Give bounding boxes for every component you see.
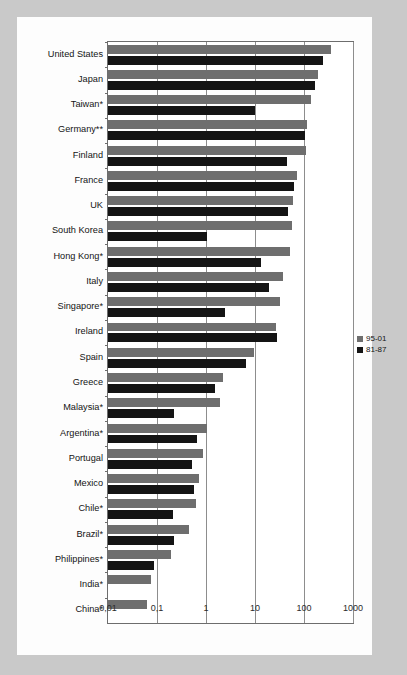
bar-row: Portugal [108,446,353,471]
bar-81-87 [108,308,225,317]
bar-row: Germany** [108,118,353,143]
bar-row: UK [108,194,353,219]
bar-81-87 [108,81,315,90]
axis-tick-mark [105,219,108,220]
category-label: Italy [86,276,108,286]
category-label: United States [48,49,108,59]
bar-row: India* [108,572,353,597]
bar-95-01 [108,221,292,230]
bar-rows: United StatesJapanTaiwan*Germany**Finlan… [108,42,353,623]
bar-81-87 [108,232,207,241]
x-tick-label: 0,01 [99,603,117,613]
bar-row: United States [108,42,353,67]
axis-tick-mark [105,168,108,169]
category-label: Japan [78,74,108,84]
bar-81-87 [108,182,294,191]
bar-95-01 [108,146,306,155]
bar-95-01 [108,247,290,256]
legend-swatch-icon [357,347,363,353]
category-label: India* [80,579,109,589]
chart-page: United StatesJapanTaiwan*Germany**Finlan… [0,0,407,675]
bar-81-87 [108,409,174,418]
bar-95-01 [108,45,331,54]
x-tick-label: 1 [203,603,208,613]
axis-tick-mark [105,42,108,43]
legend-item[interactable]: 95-01 [357,333,386,344]
bar-95-01 [108,398,220,407]
bar-95-01 [108,449,203,458]
axis-tick-mark [105,118,108,119]
axis-tick-mark [105,194,108,195]
category-label: UK [90,200,108,210]
axis-tick-mark [105,345,108,346]
bar-95-01 [108,196,293,205]
bar-95-01 [108,499,196,508]
category-label: Mexico [74,478,108,488]
chart-panel: United StatesJapanTaiwan*Germany**Finlan… [17,17,372,655]
bar-95-01 [108,272,283,281]
bar-95-01 [108,120,307,129]
bar-row: Brazil* [108,522,353,547]
bar-81-87 [108,333,277,342]
bar-row: China* [108,598,353,623]
axis-tick-mark [105,93,108,94]
bar-81-87 [108,384,215,393]
category-label: Greece [73,377,108,387]
bar-row: Argentina* [108,421,353,446]
category-label: Portugal [69,453,108,463]
axis-tick-mark [105,370,108,371]
bar-row: Singapore* [108,295,353,320]
category-label: Taiwan* [71,99,108,109]
category-label: Ireland [75,326,108,336]
bar-81-87 [108,207,288,216]
category-label: Hong Kong* [53,251,108,261]
bar-row: South Korea [108,219,353,244]
bar-81-87 [108,485,194,494]
axis-tick-mark [105,522,108,523]
bar-95-01 [108,323,276,332]
chart-legend: 95-0181-87 [357,333,386,355]
bar-95-01 [108,424,207,433]
legend-swatch-icon [357,336,363,342]
bar-row: Greece [108,370,353,395]
category-label: Chile* [78,503,108,513]
axis-tick-mark [105,143,108,144]
x-tick-label: 0,1 [151,603,164,613]
bar-row: Hong Kong* [108,244,353,269]
category-label: Finland [73,150,108,160]
axis-tick-mark [105,269,108,270]
bar-row: Mexico [108,471,353,496]
axis-tick-mark [105,497,108,498]
category-label: Argentina* [60,428,108,438]
bar-row: Malaysia* [108,396,353,421]
axis-tick-mark [105,598,108,599]
axis-tick-mark [105,572,108,573]
category-label: Malaysia* [63,402,108,412]
bar-81-87 [108,258,261,267]
axis-tick-mark [105,471,108,472]
gridline [353,42,354,623]
bar-row: Philippines* [108,547,353,572]
category-label: South Korea [52,225,108,235]
x-tick-label: 1000 [343,603,363,613]
category-label: Singapore* [58,301,108,311]
axis-tick-mark [105,396,108,397]
bar-81-87 [108,510,173,519]
bar-95-01 [108,95,311,104]
bar-row: Finland [108,143,353,168]
bar-95-01 [108,575,151,584]
legend-item[interactable]: 81-87 [357,344,386,355]
x-tick-label: 100 [296,603,311,613]
bar-row: Taiwan* [108,93,353,118]
bar-row: Italy [108,269,353,294]
axis-tick-mark [105,446,108,447]
bar-81-87 [108,359,246,368]
bar-95-01 [108,297,280,306]
category-label: France [74,175,108,185]
bar-row: Spain [108,345,353,370]
category-label: Spain [80,352,109,362]
bar-95-01 [108,171,297,180]
bar-row: Japan [108,67,353,92]
bar-81-87 [108,536,174,545]
category-label: Philippines* [55,554,108,564]
